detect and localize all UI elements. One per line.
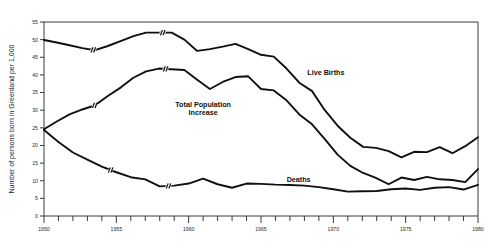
series-line-total-population-increase (44, 69, 478, 185)
line-chart: 0510152025303540455055195019551960196519… (0, 0, 496, 249)
x-tick-label: 1950 (38, 226, 50, 232)
y-tick-label: 20 (32, 142, 38, 148)
y-tick-label: 55 (32, 19, 38, 25)
chart-container: 0510152025303540455055195019551960196519… (0, 0, 496, 249)
x-tick-label: 1980 (472, 226, 484, 232)
y-tick-label: 35 (32, 89, 38, 95)
y-tick-label: 25 (32, 125, 38, 131)
y-tick-label: 30 (32, 107, 38, 113)
y-tick-label: 5 (35, 195, 38, 201)
x-tick-label: 1970 (328, 226, 340, 232)
x-tick-label: 1965 (255, 226, 267, 232)
y-tick-label: 15 (32, 160, 38, 166)
y-tick-label: 45 (32, 54, 38, 60)
x-tick-label: 1955 (111, 226, 123, 232)
x-tick-label: 1960 (183, 226, 195, 232)
series-line-deaths (44, 130, 478, 192)
series-label-deaths: Deaths (287, 175, 311, 184)
y-tick-label: 10 (32, 178, 38, 184)
y-axis-title: Number of persons born in Greenland per … (8, 44, 16, 193)
y-tick-label: 50 (32, 37, 38, 43)
y-tick-label: 0 (35, 213, 38, 219)
x-tick-label: 1975 (400, 226, 412, 232)
series-label-total-population-increase-line2: Increase (189, 108, 218, 117)
y-tick-label: 40 (32, 72, 38, 78)
series-label-live-births: Live Births (307, 68, 344, 77)
